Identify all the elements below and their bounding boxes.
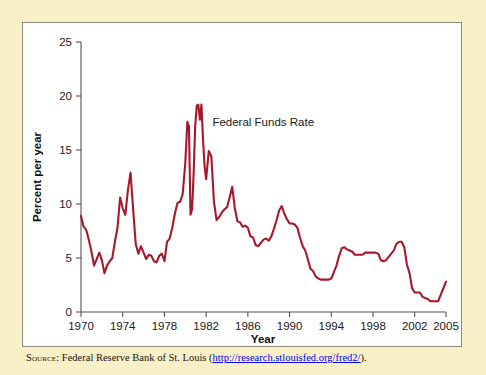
x-tick-label: 1970 — [68, 320, 94, 332]
y-axis-ticks: 0510152025 — [59, 36, 81, 318]
y-tick-label: 25 — [59, 36, 72, 48]
x-tick-label: 1986 — [235, 320, 261, 332]
x-tick-label: 2005 — [433, 320, 459, 332]
x-axis-ticks: 1970197419781982198619901994199820022005 — [68, 312, 459, 332]
source-close-paren: ). — [361, 352, 367, 363]
figure-page: 0510152025 19701974197819821986199019941… — [0, 0, 486, 375]
y-tick-label: 15 — [59, 144, 72, 156]
x-tick-label: 1998 — [360, 320, 386, 332]
x-tick-label: 1994 — [318, 320, 344, 332]
y-tick-label: 10 — [59, 198, 72, 210]
y-tick-label: 5 — [66, 252, 72, 264]
x-tick-label: 2002 — [402, 320, 428, 332]
x-tick-label: 1982 — [193, 320, 219, 332]
federal-funds-rate-chart: 0510152025 19701974197819821986199019941… — [23, 23, 461, 346]
source-label: Source: — [26, 352, 59, 363]
x-tick-label: 1974 — [110, 320, 136, 332]
y-tick-label: 20 — [59, 90, 72, 102]
x-tick-label: 1978 — [152, 320, 178, 332]
y-axis-title: Percent per year — [31, 131, 43, 222]
chart-frame: 0510152025 19701974197819821986199019941… — [22, 22, 462, 347]
series-annotation-label: Federal Funds Rate — [212, 116, 314, 128]
federal-funds-rate-line — [81, 105, 446, 302]
x-axis-title: Year — [251, 333, 276, 345]
y-tick-label: 0 — [66, 306, 72, 318]
source-url-link[interactable]: http://research.stlouisfed.org/fred2/ — [213, 352, 361, 363]
x-tick-label: 1990 — [277, 320, 303, 332]
source-text: Federal Reserve Bank of St. Louis — [62, 352, 207, 363]
source-caption: Source: Federal Reserve Bank of St. Loui… — [26, 352, 367, 363]
